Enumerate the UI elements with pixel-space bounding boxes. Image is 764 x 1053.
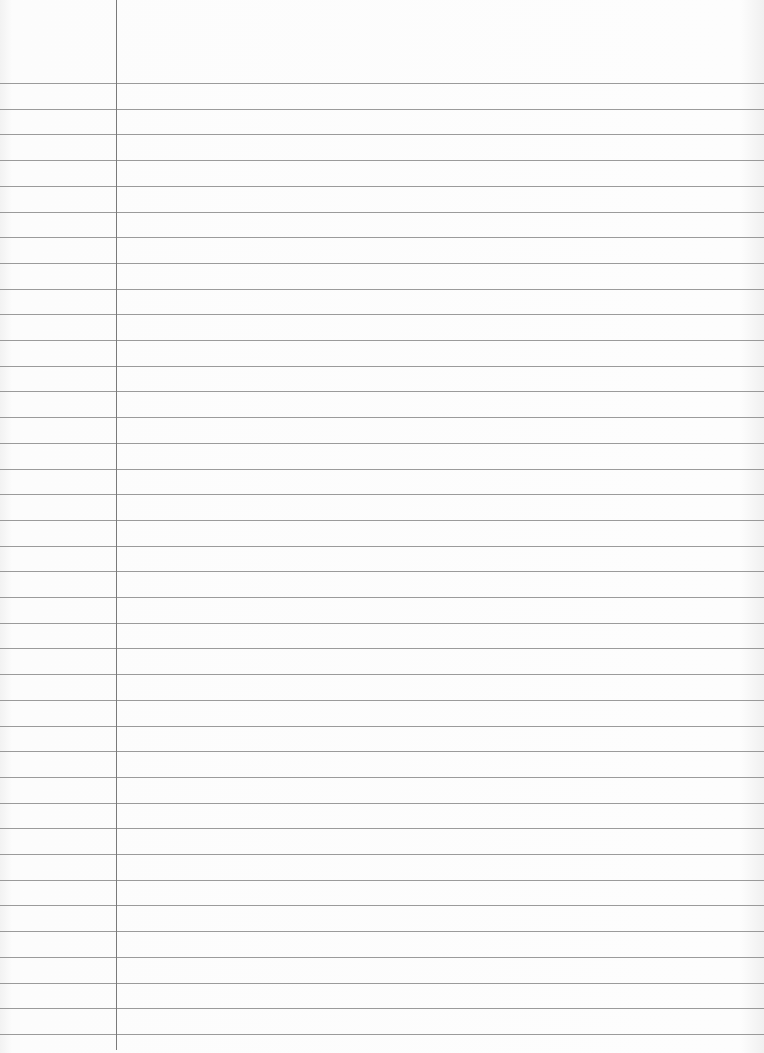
- ruled-line: [0, 905, 764, 906]
- ruled-line: [0, 880, 764, 881]
- ruled-line: [0, 289, 764, 290]
- ruled-line: [0, 160, 764, 161]
- ruled-line: [0, 494, 764, 495]
- ruled-line: [0, 623, 764, 624]
- ruled-line: [0, 546, 764, 547]
- ruled-line: [0, 443, 764, 444]
- ruled-line: [0, 417, 764, 418]
- ruled-line: [0, 186, 764, 187]
- ruled-line: [0, 983, 764, 984]
- ruled-line: [0, 957, 764, 958]
- ruled-line: [0, 340, 764, 341]
- margin-line: [116, 0, 117, 1050]
- ruled-line: [0, 469, 764, 470]
- ruled-line: [0, 391, 764, 392]
- ruled-line: [0, 726, 764, 727]
- ruled-line: [0, 828, 764, 829]
- lined-paper-sheet: [0, 0, 764, 1053]
- ruled-line: [0, 931, 764, 932]
- ruled-line: [0, 648, 764, 649]
- ruled-line: [0, 263, 764, 264]
- ruled-line: [0, 674, 764, 675]
- ruled-line: [0, 854, 764, 855]
- ruled-line: [0, 1034, 764, 1035]
- ruled-line: [0, 803, 764, 804]
- ruled-line: [0, 314, 764, 315]
- ruled-line: [0, 520, 764, 521]
- ruled-line: [0, 571, 764, 572]
- ruled-line: [0, 751, 764, 752]
- ruled-line: [0, 700, 764, 701]
- ruled-line: [0, 237, 764, 238]
- ruled-line: [0, 134, 764, 135]
- ruled-line: [0, 777, 764, 778]
- ruled-line: [0, 597, 764, 598]
- ruled-line: [0, 366, 764, 367]
- ruled-line: [0, 1008, 764, 1009]
- ruled-line: [0, 83, 764, 84]
- ruled-line: [0, 212, 764, 213]
- ruled-line: [0, 109, 764, 110]
